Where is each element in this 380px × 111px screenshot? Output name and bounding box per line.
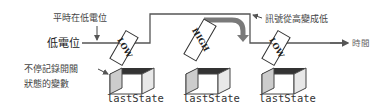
variable-label-1: lastState xyxy=(107,92,164,104)
annotation-signal-high-to-low: 訊號從高變成低 xyxy=(265,13,328,24)
pointer-arrow-icon xyxy=(98,69,108,74)
variable-label-3: lastState xyxy=(259,92,316,104)
pointer-arrow-icon xyxy=(253,15,262,18)
variable-label-2: lastState xyxy=(183,92,240,104)
low-level-label: 低電位 xyxy=(47,36,80,50)
signal-diagram: LOW HIGH LOW 平時在低電位 訊號從高變成低 不停記錄開關 狀態的變數… xyxy=(0,0,380,111)
annotation-variable-note-2: 狀態的變數 xyxy=(24,78,69,89)
time-axis-label: 時間 xyxy=(352,38,370,48)
annotation-normally-low: 平時在低電位 xyxy=(53,12,107,23)
annotation-variable-note-1: 不停記錄開關 xyxy=(24,63,78,74)
